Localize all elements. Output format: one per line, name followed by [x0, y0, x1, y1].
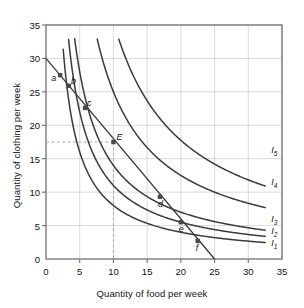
- curve-label-i4: I4: [271, 177, 277, 189]
- x-tick-label: 0: [43, 266, 48, 277]
- y-tick-label: 0: [16, 254, 40, 265]
- x-tick-label: 10: [108, 266, 119, 277]
- point-label-E: E: [116, 132, 122, 142]
- indifference-curves: [63, 39, 265, 243]
- y-tick-label: 35: [16, 20, 40, 31]
- x-tick-label: 5: [77, 266, 82, 277]
- x-tick-label: 30: [243, 266, 254, 277]
- point-label-d: d: [158, 199, 163, 209]
- x-tick-label: 15: [142, 266, 153, 277]
- curve-label-i2: I2: [271, 226, 277, 238]
- x-tick-label: 20: [176, 266, 187, 277]
- point-label-f: f: [196, 243, 199, 253]
- indifference-curve-chart: 05101520253035 05101520253035 I1I2I3I4I5…: [0, 0, 304, 308]
- curve-label-i5: I5: [271, 145, 277, 157]
- point-label-e: e: [179, 224, 184, 234]
- x-tick-label: 35: [277, 266, 288, 277]
- plot-area: [0, 0, 304, 308]
- tick-marks: [42, 25, 248, 263]
- point-label-a: a: [51, 73, 56, 83]
- curve-label-i3: I3: [271, 214, 277, 226]
- curve-label-i1: I1: [271, 238, 277, 250]
- y-tick-label: 30: [16, 53, 40, 64]
- y-axis-title: Quantity of clothing per week: [11, 66, 22, 226]
- point-label-c: c: [87, 98, 92, 108]
- point-label-b: b: [71, 76, 76, 86]
- x-axis-title: Quantity of food per week: [0, 288, 304, 299]
- x-tick-label: 25: [209, 266, 220, 277]
